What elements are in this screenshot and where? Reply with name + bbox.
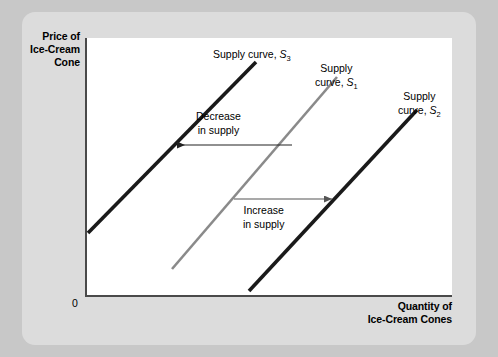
x-axis-title-line-2: Ice-Cream Cones [292,313,452,326]
s1-label-text: curve, [315,76,347,88]
supply-curve-s3-label: Supply curve, S3 [213,48,291,66]
decrease-label-line-2: in supply [196,123,241,137]
s2-label-text: curve, [398,104,430,116]
origin-label: 0 [72,297,78,309]
y-axis-title-line-3: Cone [0,56,80,69]
x-axis-title: Quantity of Ice-Cream Cones [292,300,452,326]
increase-label-line-1: Increase [243,203,284,217]
y-axis-title: Price of Ice-Cream Cone [0,30,80,69]
supply-shift-diagram: Price of Ice-Cream Cone Quantity of Ice-… [0,0,498,357]
s2-label-line-2: curve, S2 [398,104,441,122]
s3-label-subscript: 3 [287,54,291,63]
s2-label-var: S [430,104,437,116]
s1-label-subscript: 1 [354,82,358,91]
s2-label-line-1: Supply [398,90,441,104]
decrease-in-supply-label: Decrease in supply [196,109,241,137]
s2-label-subscript: 2 [437,110,441,119]
s1-label-line-2: curve, S1 [315,76,358,94]
x-axis-title-line-1: Quantity of [292,300,452,313]
y-axis-line [85,38,87,297]
s3-label-text: Supply curve, [213,48,280,60]
s3-label-var: S [280,48,287,60]
plot-area [86,38,452,296]
x-axis-line [85,295,452,297]
y-axis-title-line-1: Price of [0,30,80,43]
supply-curve-s2-label: Supply curve, S2 [398,90,441,121]
s1-label-line-1: Supply [315,62,358,76]
s1-label-var: S [347,76,354,88]
supply-curve-s1-label: Supply curve, S1 [315,62,358,93]
decrease-label-line-1: Decrease [196,109,241,123]
y-axis-title-line-2: Ice-Cream [0,43,80,56]
increase-in-supply-label: Increase in supply [243,203,284,231]
increase-label-line-2: in supply [243,217,284,231]
